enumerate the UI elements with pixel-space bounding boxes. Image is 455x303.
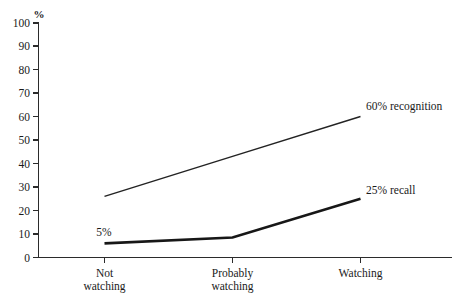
y-axis-unit-label: % <box>34 8 45 20</box>
series-label-recognition: 60% recognition <box>366 100 443 113</box>
y-tick-label: 20 <box>19 205 31 217</box>
series-line-recall <box>105 199 361 244</box>
y-tick-label: 50 <box>19 134 31 146</box>
series-line-recognition <box>105 117 361 197</box>
annotation-recall-start: 5% <box>96 226 112 238</box>
x-tick-label-not-watching-line2: watching <box>83 280 125 293</box>
x-tick-label-probably-watching-line2: watching <box>211 280 253 293</box>
y-tick-label: 100 <box>13 17 31 29</box>
y-axis-ticks: 0 10 20 30 40 50 60 70 80 90 100 <box>13 17 39 264</box>
x-axis-ticks <box>105 258 361 264</box>
series-label-recall: 25% recall <box>366 184 416 196</box>
y-tick-label: 10 <box>19 228 31 240</box>
x-tick-label-watching: Watching <box>339 267 383 280</box>
y-tick-label: 90 <box>19 40 31 52</box>
y-tick-label: 30 <box>19 181 31 193</box>
y-tick-label: 0 <box>24 252 30 264</box>
y-tick-label: 60 <box>19 111 31 123</box>
y-tick-label: 80 <box>19 64 31 76</box>
chart-canvas: % 0 10 20 30 40 50 60 70 80 <box>0 0 455 303</box>
x-tick-label-probably-watching-line1: Probably <box>212 267 254 280</box>
y-tick-label: 40 <box>19 158 31 170</box>
x-tick-label-not-watching-line1: Not <box>96 267 114 279</box>
y-tick-label: 70 <box>19 87 31 99</box>
x-axis-labels: Not watching Probably watching Watching <box>83 267 382 293</box>
line-chart: % 0 10 20 30 40 50 60 70 80 <box>0 0 455 303</box>
